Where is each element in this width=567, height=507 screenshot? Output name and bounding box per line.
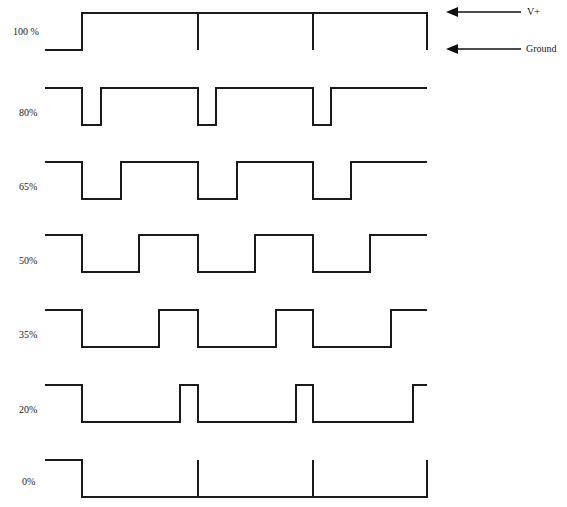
pwm-diagram: 100 % 80% 65% 50% 35% 20% 0% V+ G bbox=[0, 0, 567, 507]
ground-label: Ground bbox=[526, 43, 557, 54]
row-label: 0% bbox=[22, 476, 35, 487]
arrow-left-icon bbox=[446, 44, 458, 54]
waveform-trace bbox=[45, 385, 427, 422]
waveform-trace bbox=[45, 88, 427, 125]
waveform-trace bbox=[45, 162, 427, 199]
waveform-row-20: 20% bbox=[19, 385, 427, 422]
row-label: 20% bbox=[19, 404, 37, 415]
row-label: 35% bbox=[19, 329, 37, 340]
waveform-trace bbox=[45, 235, 427, 272]
waveform-row-0: 0% bbox=[22, 460, 427, 497]
waveform-row-100: 100 % bbox=[13, 13, 427, 50]
row-label: 50% bbox=[19, 255, 37, 266]
waveform-trace bbox=[45, 460, 427, 497]
row-label: 100 % bbox=[13, 26, 39, 37]
ground-annotation: Ground bbox=[446, 43, 557, 54]
waveform-trace bbox=[45, 13, 427, 50]
waveform-trace bbox=[45, 310, 427, 347]
waveform-row-65: 65% bbox=[19, 162, 427, 199]
row-label: 80% bbox=[19, 107, 37, 118]
waveform-row-35: 35% bbox=[19, 310, 427, 347]
row-label: 65% bbox=[19, 181, 37, 192]
v-plus-annotation: V+ bbox=[446, 6, 540, 17]
arrow-left-icon bbox=[446, 7, 458, 17]
waveform-row-50: 50% bbox=[19, 235, 427, 272]
v-plus-label: V+ bbox=[527, 6, 540, 17]
waveform-row-80: 80% bbox=[19, 88, 427, 125]
